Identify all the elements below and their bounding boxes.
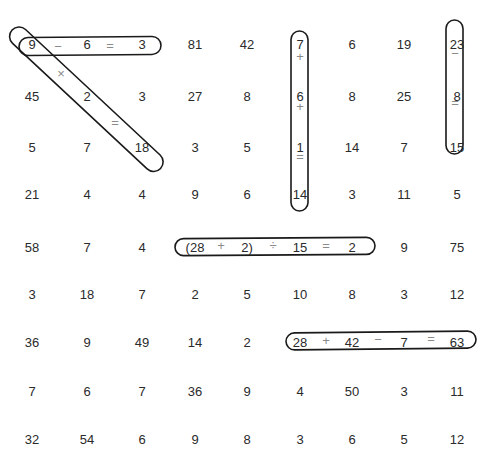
grid-cell[interactable]: 7 <box>67 138 107 158</box>
grid-cell[interactable]: 9 <box>384 238 424 258</box>
grid-cell[interactable]: 3 <box>122 35 162 55</box>
grid-cell[interactable]: 3 <box>384 382 424 402</box>
grid-cell[interactable]: 14 <box>175 333 215 353</box>
grid-cell[interactable]: 7 <box>12 382 52 402</box>
grid-cell[interactable]: 5 <box>12 138 52 158</box>
grid-cell[interactable]: 6 <box>122 430 162 450</box>
grid-cell[interactable]: 5 <box>437 185 477 205</box>
grid-cell[interactable]: 28 <box>280 333 320 353</box>
operator-symbol: + <box>292 49 308 65</box>
operator-symbol: = <box>292 149 308 165</box>
grid-cell[interactable]: 11 <box>384 185 424 205</box>
grid-cell[interactable]: 9 <box>175 185 215 205</box>
grid-cell[interactable]: 18 <box>67 285 107 305</box>
grid-cell[interactable]: 58 <box>12 238 52 258</box>
grid-cell[interactable]: 3 <box>12 285 52 305</box>
grid-cell[interactable]: 3 <box>384 285 424 305</box>
operator-symbol: + <box>213 238 229 254</box>
grid-cell[interactable]: 15 <box>280 238 320 258</box>
operator-symbol: − <box>370 332 386 348</box>
grid-cell[interactable]: 5 <box>227 138 267 158</box>
grid-cell[interactable]: 4 <box>280 382 320 402</box>
grid-cell[interactable]: 7 <box>122 285 162 305</box>
grid-cell[interactable]: 36 <box>12 333 52 353</box>
grid-cell[interactable]: 54 <box>67 430 107 450</box>
grid-cell[interactable]: 4 <box>67 185 107 205</box>
grid-cell[interactable]: 4 <box>122 185 162 205</box>
grid-cell[interactable]: 6 <box>67 35 107 55</box>
grid-cell[interactable]: 6 <box>332 35 372 55</box>
grid-cell[interactable]: 3 <box>122 87 162 107</box>
grid-cell[interactable]: 63 <box>437 333 477 353</box>
grid-cell[interactable]: 8 <box>332 87 372 107</box>
operator-symbol: = <box>447 95 463 111</box>
operator-symbol: = <box>318 238 334 254</box>
grid-cell[interactable]: 11 <box>437 382 477 402</box>
operator-symbol: − <box>447 46 463 62</box>
operator-symbol: = <box>423 331 439 347</box>
grid-cell[interactable]: 18 <box>122 138 162 158</box>
grid-cell[interactable]: 42 <box>227 35 267 55</box>
operator-symbol: − <box>50 39 66 55</box>
grid-cell[interactable]: 81 <box>175 35 215 55</box>
grid-cell[interactable]: 45 <box>12 87 52 107</box>
grid-cell[interactable]: 7 <box>122 382 162 402</box>
grid-cell[interactable]: 9 <box>227 382 267 402</box>
grid-cell[interactable]: 27 <box>175 87 215 107</box>
grid-cell[interactable]: 14 <box>280 185 320 205</box>
grid-cell[interactable]: 4 <box>122 238 162 258</box>
grid-cell[interactable]: 12 <box>437 430 477 450</box>
grid-cell[interactable]: 3 <box>280 430 320 450</box>
grid-cell[interactable]: 8 <box>332 285 372 305</box>
grid-cell[interactable]: 9 <box>175 430 215 450</box>
grid-cell[interactable]: 3 <box>175 138 215 158</box>
grid-cell[interactable]: 2 <box>227 333 267 353</box>
operator-symbol: = <box>102 38 118 54</box>
grid-cell[interactable]: 19 <box>384 35 424 55</box>
grid-cell[interactable]: 21 <box>12 185 52 205</box>
operator-symbol: + <box>292 99 308 115</box>
grid-cell[interactable]: 2 <box>175 285 215 305</box>
operator-symbol: × <box>53 66 69 82</box>
grid-cell[interactable]: 9 <box>12 35 52 55</box>
grid-cell[interactable]: 5 <box>384 430 424 450</box>
grid-cell[interactable]: 14 <box>332 138 372 158</box>
grid-cell[interactable]: 6 <box>227 185 267 205</box>
operator-symbol: ÷ <box>265 238 281 254</box>
grid-cell[interactable]: 12 <box>437 285 477 305</box>
grid-cell[interactable]: 8 <box>227 87 267 107</box>
grid-cell[interactable]: 75 <box>437 238 477 258</box>
grid-cell[interactable]: 49 <box>122 333 162 353</box>
grid-cell[interactable]: 8 <box>227 430 267 450</box>
grid-cell[interactable]: 3 <box>332 185 372 205</box>
grid-cell[interactable]: 10 <box>280 285 320 305</box>
grid-cell[interactable]: 7 <box>384 333 424 353</box>
grid-cell[interactable]: 15 <box>437 138 477 158</box>
grid-cell[interactable]: 32 <box>12 430 52 450</box>
grid-cell[interactable]: 2) <box>227 238 267 258</box>
grid-cell[interactable]: 6 <box>67 382 107 402</box>
grid-cell[interactable]: 6 <box>332 430 372 450</box>
grid-cell[interactable]: 5 <box>227 285 267 305</box>
operator-symbol: + <box>318 333 334 349</box>
grid-cell[interactable]: 25 <box>384 87 424 107</box>
operator-symbol: = <box>107 115 123 131</box>
grid-cell[interactable]: 42 <box>332 333 372 353</box>
grid-cell[interactable]: 2 <box>67 87 107 107</box>
grid-cell[interactable]: 2 <box>332 238 372 258</box>
grid-cell[interactable]: 9 <box>67 333 107 353</box>
grid-cell[interactable]: (28 <box>175 238 215 258</box>
grid-cell[interactable]: 36 <box>175 382 215 402</box>
puzzle-board: 9638142761923452327868258571835114715214… <box>0 0 503 470</box>
grid-cell[interactable]: 50 <box>332 382 372 402</box>
grid-cell[interactable]: 7 <box>384 138 424 158</box>
grid-cell[interactable]: 7 <box>67 238 107 258</box>
